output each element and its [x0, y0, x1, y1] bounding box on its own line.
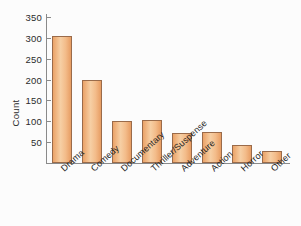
y-tick-label: 200: [26, 74, 42, 85]
y-axis-title: Count: [10, 100, 21, 127]
y-tick-label: 150: [26, 95, 42, 106]
bar: [52, 36, 72, 163]
bar-chart: Count 50100150200250300350 DramaComedyDo…: [0, 0, 301, 226]
y-tick-label: 300: [26, 32, 42, 43]
y-tick-label: 250: [26, 53, 42, 64]
y-tick-label: 350: [26, 12, 42, 23]
y-tick-label: 50: [31, 137, 42, 148]
y-tick-label: 100: [26, 116, 42, 127]
plot-area: [46, 17, 290, 163]
bar: [82, 80, 102, 163]
